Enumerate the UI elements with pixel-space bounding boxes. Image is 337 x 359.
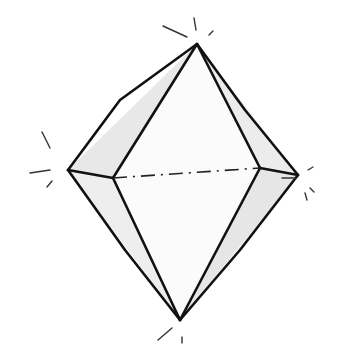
front-face (113, 44, 260, 320)
crystal-sketch: hand-drawn octahedron crystal sketch (0, 0, 337, 359)
octahedron-drawing (0, 0, 337, 359)
